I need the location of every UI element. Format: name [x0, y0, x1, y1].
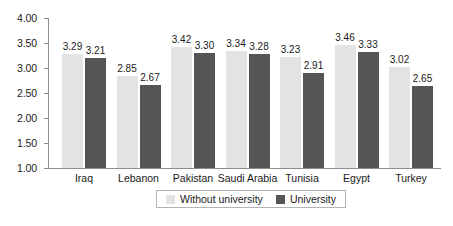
y-tick-label: 1.50: [17, 137, 37, 149]
bar-value-label: 3.30: [195, 40, 214, 51]
chart-legend: Without university University: [156, 190, 346, 208]
bar: 3.46: [335, 45, 356, 168]
bar: 3.02: [389, 67, 410, 168]
y-tick-mark: 3.50: [44, 43, 48, 44]
bar-value-label: 3.21: [86, 45, 105, 56]
y-tick-mark: 2.50: [44, 93, 48, 94]
x-axis-label-egypt: Egypt: [343, 172, 370, 185]
bar-group: 3.232.91: [280, 18, 324, 168]
y-tick-label: 1.00: [17, 162, 37, 174]
x-axis-label-lebanon: Lebanon: [118, 172, 159, 185]
bar: 2.67: [140, 85, 161, 169]
bar-group: 3.463.33: [335, 18, 379, 168]
x-axis-label-turkey: Turkey: [395, 172, 427, 185]
x-axis-label-tunisia: Tunisia: [285, 172, 318, 185]
y-tick-mark: 2.00: [44, 118, 48, 119]
bar: 2.65: [412, 86, 433, 169]
bar: 3.42: [171, 47, 192, 168]
bar-value-label: 3.02: [390, 54, 409, 65]
plot-area: 4.003.503.002.502.001.501.00 3.293.212.8…: [48, 18, 440, 168]
bar-value-label: 3.33: [358, 39, 377, 50]
bar: 3.34: [226, 51, 247, 168]
y-tick-label: 3.00: [17, 62, 37, 74]
y-tick-label: 2.00: [17, 112, 37, 124]
y-tick-mark: 1.00: [44, 168, 48, 169]
bar: 3.30: [194, 53, 215, 168]
bar: 2.85: [117, 76, 138, 169]
x-axis-label-saudi-arabia: Saudi Arabia: [218, 172, 278, 185]
y-tick-mark: 1.50: [44, 143, 48, 144]
legend-item-without-university: Without university: [166, 193, 263, 205]
y-tick-mark: 4.00: [44, 18, 48, 19]
x-axis-label-pakistan: Pakistan: [173, 172, 213, 185]
legend-item-university: University: [276, 193, 336, 205]
x-axis-label-iraq: Iraq: [75, 172, 93, 185]
bar: 2.91: [303, 73, 324, 169]
bar-value-label: 3.42: [172, 34, 191, 45]
bar-value-label: 2.91: [304, 60, 323, 71]
bar-value-label: 3.34: [226, 38, 245, 49]
bar: 3.23: [280, 57, 301, 169]
bar-chart: 4.003.503.002.502.001.501.00 3.293.212.8…: [0, 0, 453, 226]
x-axis-line: [48, 168, 441, 169]
legend-label-university: University: [290, 193, 336, 205]
bar-value-label: 3.28: [249, 41, 268, 52]
y-tick-mark: 3.00: [44, 68, 48, 69]
bar-value-label: 3.46: [335, 32, 354, 43]
y-tick-label: 3.50: [17, 37, 37, 49]
bar-group: 3.293.21: [62, 18, 106, 168]
bar-value-label: 3.23: [281, 44, 300, 55]
y-tick-label: 4.00: [17, 12, 37, 24]
bar: 3.33: [358, 52, 379, 169]
bar: 3.21: [85, 58, 106, 169]
bar: 3.29: [62, 54, 83, 169]
bar-value-label: 2.65: [413, 73, 432, 84]
legend-swatch-icon-university: [276, 195, 285, 204]
bar: 3.28: [249, 54, 270, 168]
bar-group: 3.022.65: [389, 18, 433, 168]
legend-swatch-icon-without-university: [166, 195, 175, 204]
y-tick-label: 2.50: [17, 87, 37, 99]
bar-group: 2.852.67: [117, 18, 161, 168]
bar-value-label: 3.29: [63, 41, 82, 52]
bar-group: 3.343.28: [226, 18, 270, 168]
bar-value-label: 2.85: [117, 63, 136, 74]
bar-group: 3.423.30: [171, 18, 215, 168]
bar-value-label: 2.67: [140, 72, 159, 83]
legend-label-without-university: Without university: [180, 193, 263, 205]
